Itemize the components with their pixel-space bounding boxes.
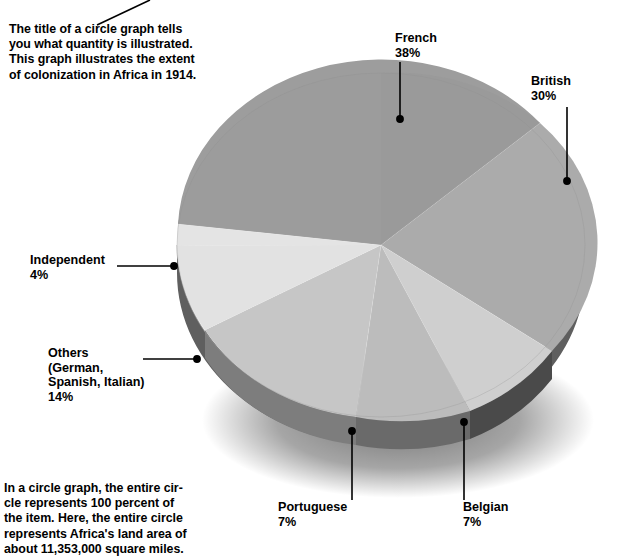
caption-bottom-left: In a circle graph, the entire cir- cle r…: [4, 481, 242, 557]
pie-label-british: British 30%: [531, 74, 571, 103]
leader-dot-british: [564, 178, 570, 184]
pie-label-french: French 38%: [395, 31, 437, 60]
pie-label-portuguese: Portuguese 7%: [278, 500, 347, 529]
leader-dot-belgian: [461, 419, 467, 425]
leader-dot-others: [194, 356, 200, 362]
leader-dot-independent: [171, 263, 177, 269]
leader-dot-french: [397, 116, 403, 122]
pie-label-independent: Independent 4%: [30, 253, 105, 282]
leader-dot-portuguese: [349, 428, 355, 434]
pie-label-others: Others (German, Spanish, Italian) 14%: [48, 346, 145, 404]
caption-top-left: The title of a circle graph tells you wh…: [9, 22, 259, 83]
pie-label-belgian: Belgian 7%: [463, 500, 509, 529]
